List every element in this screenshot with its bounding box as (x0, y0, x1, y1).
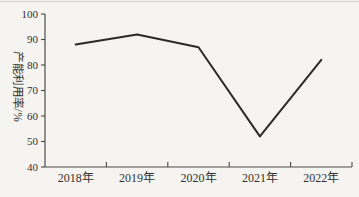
y-tick-label: 100 (22, 8, 39, 20)
y-tick-label: 90 (27, 33, 39, 45)
x-tick-label: 2020年 (181, 171, 217, 185)
x-tick-label: 2018年 (58, 171, 94, 185)
capacity-utilization-series-line (76, 34, 322, 136)
x-tick-label: 2021年 (242, 171, 278, 185)
y-tick-label: 40 (27, 161, 39, 173)
y-tick-label: 60 (27, 110, 39, 122)
y-tick-label: 70 (27, 84, 39, 96)
y-tick-label: 50 (27, 135, 39, 147)
y-tick-label: 80 (27, 59, 39, 71)
x-tick-label: 2019年 (119, 171, 155, 185)
x-tick-label: 2022年 (303, 171, 339, 185)
line-chart-canvas: 4050607080901002018年2019年2020年2021年2022年 (0, 0, 359, 197)
capacity-utilization-chart-figure: 产能利用率/% 4050607080901002018年2019年2020年20… (0, 0, 359, 197)
